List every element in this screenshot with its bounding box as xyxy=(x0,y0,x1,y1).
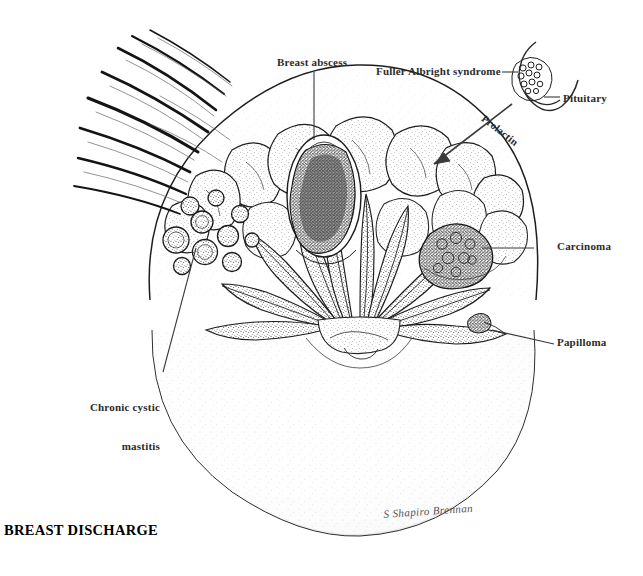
label-carcinoma: Carcinoma xyxy=(557,240,611,253)
label-pituitary: Pituitary xyxy=(563,92,607,105)
breast-pathology-illustration xyxy=(0,0,643,576)
label-chronic-cystic-mastitis: Chronic cystic mastitis xyxy=(47,375,160,466)
label-chronic-cystic-mastitis-line1: Chronic cystic xyxy=(47,401,160,414)
label-chronic-cystic-mastitis-line2: mastitis xyxy=(47,440,160,453)
label-papilloma: Papilloma xyxy=(557,336,606,349)
lower-breast-dome xyxy=(140,320,550,560)
label-breast-abscess: Breast abscess xyxy=(277,56,347,69)
figure-title: BREAST DISCHARGE xyxy=(4,522,158,539)
label-fuller-albright-syndrome: Fuller Albright syndrome xyxy=(376,65,501,78)
